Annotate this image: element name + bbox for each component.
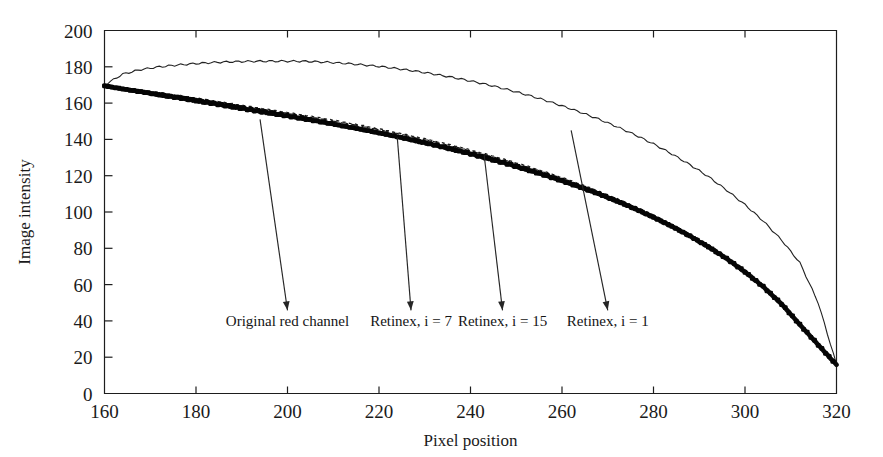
y-tick-label: 20	[74, 347, 93, 368]
arrow-head-icon	[407, 301, 414, 310]
x-axis-ticks	[196, 31, 745, 394]
y-tick-label: 180	[64, 57, 93, 78]
y-tick-label: 100	[64, 202, 93, 223]
x-tick-label: 200	[273, 401, 302, 422]
y-axis-ticks	[105, 67, 113, 357]
data-marker	[761, 284, 766, 289]
axis-frame	[105, 31, 837, 394]
y-tick-label: 0	[83, 384, 93, 405]
x-axis-tick-labels: 160180200220240260280300320	[90, 401, 851, 422]
x-tick-label: 280	[639, 401, 668, 422]
x-axis-title: Pixel position	[424, 431, 518, 450]
leader-line	[397, 138, 411, 311]
x-tick-label: 220	[365, 401, 394, 422]
chart-plot-area: 160180200220240260280300320 020406080100…	[0, 0, 883, 457]
x-tick-label: 320	[822, 401, 851, 422]
annotation-label: Retinex, i = 7	[370, 313, 452, 329]
x-tick-label: 300	[731, 401, 760, 422]
leader-line	[484, 156, 502, 311]
x-tick-label: 260	[548, 401, 577, 422]
annotation-label: Original red channel	[226, 313, 349, 329]
data-marker	[827, 354, 832, 359]
x-tick-label: 180	[182, 401, 211, 422]
annotation-label: Retinex, i = 15	[458, 313, 547, 329]
data-marker	[746, 272, 751, 277]
data-marker	[790, 313, 795, 318]
annotation-1: Original red channel	[226, 119, 349, 329]
y-axis-tick-labels: 020406080100120140160180200	[64, 21, 93, 405]
data-marker	[754, 278, 759, 283]
x-tick-label: 240	[456, 401, 485, 422]
y-tick-label: 120	[64, 166, 93, 187]
data-marker	[819, 346, 824, 351]
annotation-2: Retinex, i = 7	[370, 138, 452, 330]
arrow-head-icon	[498, 301, 505, 310]
data-marker	[830, 359, 835, 364]
data-marker	[776, 298, 781, 303]
y-tick-label: 80	[74, 238, 93, 259]
leader-line	[571, 130, 608, 310]
data-marker	[783, 305, 788, 310]
arrow-head-icon	[283, 301, 290, 310]
y-tick-label: 40	[74, 311, 93, 332]
y-tick-label: 140	[64, 129, 93, 150]
leader-line	[260, 119, 287, 310]
annotation-label: Retinex, i = 1	[567, 313, 649, 329]
y-tick-label: 60	[74, 275, 93, 296]
arrow-head-icon	[603, 301, 610, 310]
data-marker	[768, 291, 773, 296]
annotation-4: Retinex, i = 1	[567, 130, 649, 329]
chart-figure: 160180200220240260280300320 020406080100…	[0, 0, 883, 457]
data-marker	[798, 322, 803, 327]
x-tick-label: 160	[90, 401, 119, 422]
y-tick-label: 200	[64, 21, 93, 42]
annotation-3: Retinex, i = 15	[458, 156, 547, 330]
y-tick-label: 160	[64, 93, 93, 114]
y-axis-title: Image intensity	[15, 159, 34, 265]
data-marker	[812, 338, 817, 343]
data-marker	[805, 330, 810, 335]
annotation-group: Original red channelRetinex, i = 7Retine…	[226, 119, 649, 329]
